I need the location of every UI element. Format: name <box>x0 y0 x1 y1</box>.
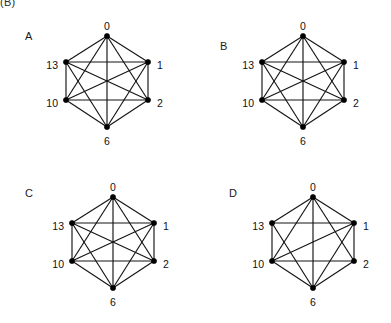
graph-edge <box>313 197 354 223</box>
graph-node-10 <box>69 258 74 263</box>
node-label-6: 6 <box>310 296 316 308</box>
node-label-2: 2 <box>363 258 369 270</box>
node-label-2: 2 <box>163 258 169 270</box>
node-label-1: 1 <box>363 220 369 232</box>
graph-node-13 <box>259 59 264 64</box>
graph-edge <box>313 197 354 261</box>
node-label-6: 6 <box>110 296 116 308</box>
node-label-1: 1 <box>163 220 169 232</box>
graph-edge <box>72 261 113 288</box>
graph-edge <box>303 100 344 127</box>
node-label-0: 0 <box>310 181 316 193</box>
edge-group <box>66 36 148 127</box>
node-label-1: 1 <box>157 59 163 71</box>
graph-edge <box>66 100 107 127</box>
graph-edge <box>262 100 303 127</box>
figure-root: (B) A01261013B01261013C01261013D01261013 <box>0 0 391 323</box>
node-label-13: 13 <box>52 220 64 232</box>
graph-node-1 <box>351 220 356 225</box>
graph-edge <box>113 197 154 223</box>
edge-group <box>272 197 354 288</box>
graph-panel-c: C01261013 <box>0 161 196 323</box>
graph-node-10 <box>259 97 264 102</box>
graph-node-13 <box>63 59 68 64</box>
graph-edge <box>113 261 154 288</box>
node-label-10: 10 <box>252 258 264 270</box>
graph-drawing-b: 01261013 <box>196 0 391 162</box>
graph-edge <box>272 223 313 288</box>
graph-node-2 <box>145 97 150 102</box>
node-label-13: 13 <box>252 220 264 232</box>
node-label-6: 6 <box>104 135 110 147</box>
graph-edge <box>72 197 113 223</box>
graph-drawing-a: 01261013 <box>0 0 196 162</box>
graph-node-2 <box>341 97 346 102</box>
graph-node-10 <box>269 258 274 263</box>
graph-panel-a: A01261013 <box>0 0 196 162</box>
graph-drawing-d: 01261013 <box>196 161 391 323</box>
graph-edge <box>303 36 344 62</box>
node-label-1: 1 <box>353 59 359 71</box>
node-label-0: 0 <box>104 20 110 32</box>
graph-node-1 <box>341 59 346 64</box>
graph-edge <box>107 100 148 127</box>
graph-node-0 <box>110 194 115 199</box>
graph-edge <box>272 197 313 223</box>
graph-node-0 <box>310 194 315 199</box>
node-label-13: 13 <box>46 59 58 71</box>
graph-drawing-c: 01261013 <box>0 161 196 323</box>
node-label-10: 10 <box>52 258 64 270</box>
graph-node-10 <box>63 97 68 102</box>
graph-node-13 <box>269 220 274 225</box>
node-label-13: 13 <box>242 59 254 71</box>
graph-panel-b: B01261013 <box>196 0 391 162</box>
graph-node-1 <box>145 59 150 64</box>
graph-node-2 <box>351 258 356 263</box>
graph-node-13 <box>69 220 74 225</box>
graph-node-6 <box>310 285 315 290</box>
graph-edge <box>262 36 303 62</box>
graph-edge <box>272 261 313 288</box>
graph-edge <box>107 36 148 62</box>
graph-node-0 <box>300 33 305 38</box>
graph-node-6 <box>104 124 109 129</box>
graph-edge <box>313 261 354 288</box>
node-label-2: 2 <box>157 97 163 109</box>
node-label-0: 0 <box>110 181 116 193</box>
node-label-6: 6 <box>300 135 306 147</box>
node-label-2: 2 <box>353 97 359 109</box>
node-label-10: 10 <box>46 97 58 109</box>
graph-node-2 <box>151 258 156 263</box>
graph-node-0 <box>104 33 109 38</box>
edge-group <box>262 36 344 127</box>
graph-edge <box>66 36 107 62</box>
graph-node-6 <box>110 285 115 290</box>
graph-node-6 <box>300 124 305 129</box>
edge-group <box>72 197 154 288</box>
node-label-0: 0 <box>300 20 306 32</box>
graph-panel-d: D01261013 <box>196 161 391 323</box>
node-label-10: 10 <box>242 97 254 109</box>
graph-node-1 <box>151 220 156 225</box>
